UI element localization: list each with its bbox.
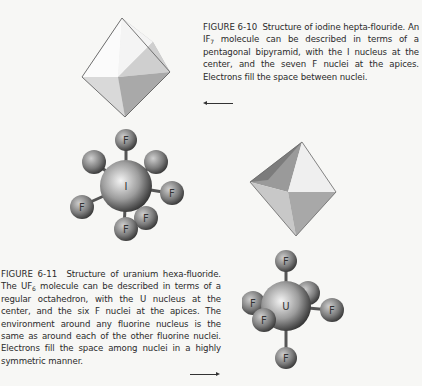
svg-text:F: F bbox=[283, 353, 289, 364]
fluorine-atom: F bbox=[275, 347, 297, 369]
figure-6-10-label: FIGURE 6-10 bbox=[203, 22, 257, 32]
fluorine-atom bbox=[144, 150, 168, 174]
fluorine-atom: F bbox=[320, 298, 344, 322]
fluorine-atom: F bbox=[275, 250, 297, 272]
svg-text:F: F bbox=[250, 298, 256, 309]
svg-text:F: F bbox=[329, 305, 335, 316]
fluorine-atom: F bbox=[115, 129, 137, 151]
svg-text:F: F bbox=[123, 224, 129, 235]
left-arrow-icon bbox=[207, 103, 233, 104]
svg-text:F: F bbox=[123, 135, 129, 146]
figure-6-10-caption: FIGURE 6-10 Structure of iodine hepta-fl… bbox=[203, 21, 419, 83]
svg-text:F: F bbox=[143, 213, 149, 224]
fluorine-atom: F bbox=[160, 181, 184, 205]
svg-text:F: F bbox=[79, 202, 85, 213]
svg-text:I: I bbox=[125, 181, 128, 192]
fluorine-atom bbox=[82, 150, 106, 174]
right-arrow-icon bbox=[190, 374, 216, 375]
uf6-molecule-model: F F U F F F bbox=[242, 248, 352, 378]
fluorine-atom: F bbox=[252, 308, 276, 332]
svg-text:U: U bbox=[282, 301, 289, 312]
svg-text:F: F bbox=[283, 256, 289, 267]
if7-molecule-model: F I F F F F bbox=[64, 128, 194, 243]
fluorine-atom: F bbox=[70, 195, 94, 219]
figure-6-10-caption-end: molecule can be described in terms of a … bbox=[203, 34, 419, 81]
figure-6-11-label: FIGURE 6-11 bbox=[1, 269, 57, 279]
svg-text:F: F bbox=[261, 315, 267, 326]
svg-text:F: F bbox=[169, 188, 175, 199]
figure-6-11-caption: FIGURE 6-11 Structure of uranium hexa-fl… bbox=[1, 268, 221, 367]
octahedron-icon bbox=[248, 140, 340, 240]
pentagonal-bipyramid-icon bbox=[78, 15, 174, 120]
figure-6-11-caption-end: molecule can be described in terms of a … bbox=[1, 281, 221, 365]
fluorine-atom: F bbox=[114, 217, 138, 241]
